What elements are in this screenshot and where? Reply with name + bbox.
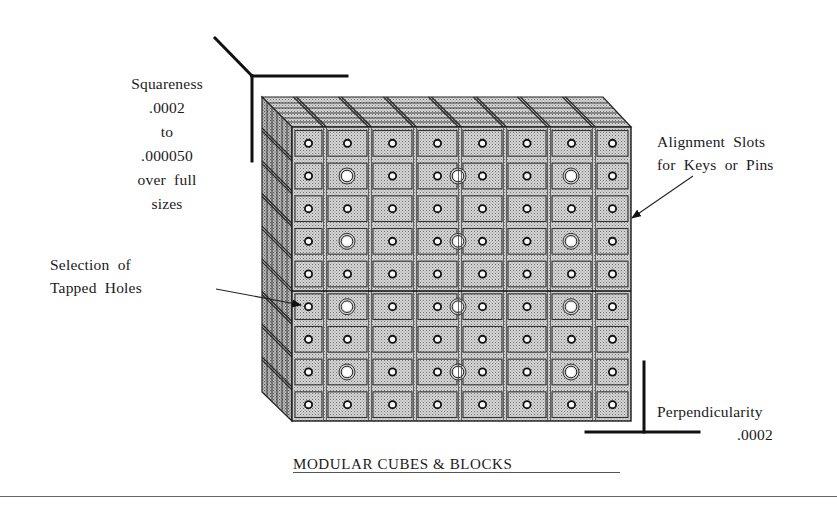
tapped-hole-icon xyxy=(389,368,396,375)
tapped-hole-icon xyxy=(609,401,616,408)
tapped-hole-icon xyxy=(523,205,530,212)
alignment-pin-hole-icon xyxy=(563,233,579,249)
tapped-hole-icon xyxy=(479,401,486,408)
tapped-hole-icon xyxy=(523,270,530,277)
tapped-hole-icon xyxy=(568,140,575,147)
tapped-hole-icon xyxy=(523,172,530,179)
block-top-face xyxy=(262,97,631,127)
tapped-hole-icon xyxy=(434,140,441,147)
tapped-hole-icon xyxy=(344,140,351,147)
tapped-hole-icon xyxy=(389,270,396,277)
tapped-hole-icon xyxy=(389,303,396,310)
block-side-face xyxy=(262,97,292,421)
tapped-hole-icon xyxy=(434,336,441,343)
tapped-hole-icon xyxy=(305,368,312,375)
block-front-face xyxy=(292,127,631,421)
alignment-pin-hole-icon xyxy=(450,364,466,380)
tapped-hole-icon xyxy=(523,336,530,343)
tapped-hole-icon xyxy=(568,205,575,212)
tapped-hole-icon xyxy=(434,270,441,277)
tapped-hole-icon xyxy=(609,270,616,277)
perpendicularity-value: .0002 xyxy=(657,423,773,446)
tapped-hole-icon xyxy=(344,401,351,408)
tapped-hole-icon xyxy=(305,140,312,147)
squareness-line: .0002 xyxy=(107,96,227,120)
tapped-hole-icon xyxy=(305,270,312,277)
alignment-pin-hole-icon xyxy=(339,299,355,315)
tapped-hole-icon xyxy=(568,270,575,277)
tapped-hole-icon xyxy=(305,238,312,245)
alignment-pin-hole-icon xyxy=(339,364,355,380)
tapped-hole-icon xyxy=(479,172,486,179)
tapped-holes-label: Selection of Tapped Holes xyxy=(50,253,142,299)
tapped-hole-icon xyxy=(609,336,616,343)
squareness-line: .000050 xyxy=(107,144,227,168)
tapped-hole-icon xyxy=(389,401,396,408)
squareness-line: Squareness xyxy=(107,72,227,96)
alignment-pin-hole-icon xyxy=(450,233,466,249)
tapped-hole-icon xyxy=(434,238,441,245)
tapped-hole-icon xyxy=(434,172,441,179)
tapped-hole-icon xyxy=(434,303,441,310)
squareness-line: over full xyxy=(107,168,227,192)
alignment-pin-hole-icon xyxy=(450,299,466,315)
tapped-hole-icon xyxy=(609,303,616,310)
tapped-hole-icon xyxy=(479,140,486,147)
tapped-hole-icon xyxy=(609,172,616,179)
alignment-pin-hole-icon xyxy=(339,233,355,249)
tapped-hole-icon xyxy=(389,205,396,212)
alignment-line: for Keys or Pins xyxy=(657,153,774,176)
tapped-hole-icon xyxy=(609,205,616,212)
tapped-hole-icon xyxy=(609,368,616,375)
tapped-hole-icon xyxy=(523,238,530,245)
tapped-hole-icon xyxy=(568,336,575,343)
tapped-hole-icon xyxy=(389,140,396,147)
page-divider xyxy=(0,496,837,497)
squareness-line: sizes xyxy=(107,192,227,216)
alignment-pin-hole-icon xyxy=(339,168,355,184)
tapped-hole-icon xyxy=(523,303,530,310)
tapped-hole-icon xyxy=(479,205,486,212)
alignment-pin-hole-icon xyxy=(450,168,466,184)
tapped-hole-icon xyxy=(523,401,530,408)
tapped-hole-icon xyxy=(305,303,312,310)
tapped-hole-icon xyxy=(479,336,486,343)
alignment-slots-arrow xyxy=(632,176,693,218)
alignment-pin-hole-icon xyxy=(563,168,579,184)
tapped-hole-icon xyxy=(609,238,616,245)
tapped-hole-icon xyxy=(434,401,441,408)
tapped-hole-icon xyxy=(609,140,616,147)
tapped-hole-icon xyxy=(523,140,530,147)
alignment-pin-hole-icon xyxy=(563,299,579,315)
tapped-hole-icon xyxy=(305,172,312,179)
tapped-hole-icon xyxy=(344,336,351,343)
tapped-hole-icon xyxy=(305,205,312,212)
tapped-hole-icon xyxy=(344,270,351,277)
perpendicularity-title: Perpendicularity xyxy=(657,403,763,420)
caption-underline xyxy=(293,472,620,473)
alignment-line: Alignment Slots xyxy=(657,130,774,153)
tapped-line: Tapped Holes xyxy=(50,276,142,299)
tapped-hole-icon xyxy=(305,401,312,408)
tapped-hole-icon xyxy=(523,368,530,375)
tapped-hole-icon xyxy=(434,205,441,212)
tapped-hole-icon xyxy=(344,205,351,212)
tapped-hole-icon xyxy=(389,238,396,245)
squareness-label: Squareness .0002 to .000050 over full si… xyxy=(107,72,227,216)
tapped-hole-icon xyxy=(479,238,486,245)
tapped-hole-icon xyxy=(568,401,575,408)
tapped-line: Selection of xyxy=(50,253,142,276)
tapped-hole-icon xyxy=(479,303,486,310)
perpendicularity-label: Perpendicularity .0002 xyxy=(657,400,773,446)
alignment-slots-label: Alignment Slots for Keys or Pins xyxy=(657,130,774,176)
tapped-hole-icon xyxy=(389,336,396,343)
tapped-hole-icon xyxy=(305,336,312,343)
alignment-pin-hole-icon xyxy=(563,364,579,380)
tapped-hole-icon xyxy=(479,270,486,277)
tapped-hole-icon xyxy=(389,172,396,179)
tapped-hole-icon xyxy=(434,368,441,375)
squareness-line: to xyxy=(107,120,227,144)
tapped-hole-icon xyxy=(479,368,486,375)
